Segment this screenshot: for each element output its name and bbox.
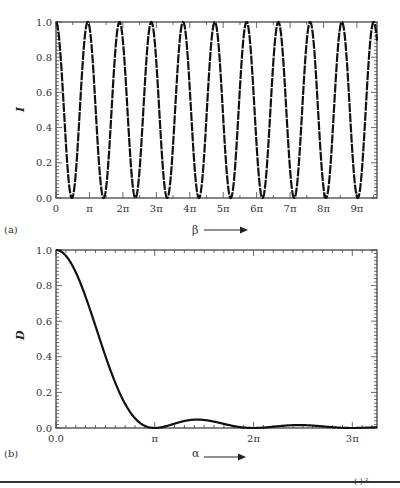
cropped-formula-fragment: ( ) ² bbox=[354, 477, 369, 486]
panel-b-x-axis-title: α bbox=[192, 447, 200, 460]
y-tick-label: 1.0 bbox=[36, 17, 52, 28]
arrow-icon bbox=[204, 454, 246, 461]
x-tick-label: 5π bbox=[217, 203, 230, 214]
panel-a-curve bbox=[56, 22, 377, 198]
x-tick-label: 2π bbox=[247, 433, 260, 444]
panel-a-x-axis-title: β bbox=[192, 224, 198, 237]
x-tick-label: 9π bbox=[350, 203, 363, 214]
y-tick-label: 0.4 bbox=[36, 122, 52, 133]
x-tick-label: 3π bbox=[346, 433, 359, 444]
x-tick-label: 3π bbox=[150, 203, 163, 214]
y-tick-label: 1.0 bbox=[36, 245, 52, 256]
panel-a-label: (a) bbox=[4, 224, 18, 235]
y-tick-label: 0.8 bbox=[36, 280, 52, 291]
y-tick-label: 0.8 bbox=[36, 52, 52, 63]
panel-a-y-tick-labels: 0.00.20.40.60.81.0 bbox=[36, 17, 52, 204]
y-tick-label: 0.6 bbox=[36, 87, 52, 98]
panel-a-frame bbox=[56, 22, 377, 198]
y-tick-label: 0.4 bbox=[36, 351, 52, 362]
panel-b-label: (b) bbox=[4, 448, 18, 459]
panel-b-y-tick-labels: 0.00.20.40.60.81.0 bbox=[36, 245, 52, 434]
panel-b-plot: 0.0π2π3π 0.00.20.40.60.81.0 D (b) α bbox=[4, 245, 377, 461]
y-tick-label: 0.0 bbox=[36, 193, 52, 204]
panel-b-ticks bbox=[56, 250, 377, 428]
x-tick-label: 0.0 bbox=[48, 433, 64, 444]
panel-b-y-axis-title: D bbox=[14, 330, 27, 341]
x-tick-label: 6π bbox=[250, 203, 263, 214]
y-tick-label: 0.0 bbox=[36, 423, 52, 434]
y-tick-label: 0.2 bbox=[36, 387, 52, 398]
arrow-icon bbox=[204, 227, 248, 234]
y-tick-label: 0.2 bbox=[36, 157, 52, 168]
figure: 0π2π3π4π5π6π7π8π9π 0.00.20.40.60.81.0 I … bbox=[0, 0, 400, 488]
panel-a-y-axis-title: I bbox=[14, 106, 27, 113]
x-tick-label: 0 bbox=[53, 203, 59, 214]
panel-a-x-tick-labels: 0π2π3π4π5π6π7π8π9π bbox=[53, 203, 364, 214]
panel-b-frame bbox=[56, 250, 377, 428]
x-tick-label: 2π bbox=[116, 203, 129, 214]
panel-a-ticks bbox=[56, 22, 377, 198]
x-tick-label: 8π bbox=[317, 203, 330, 214]
panel-a-plot: 0π2π3π4π5π6π7π8π9π 0.00.20.40.60.81.0 I … bbox=[4, 17, 377, 238]
panel-b-curve bbox=[56, 250, 377, 428]
x-tick-label: 4π bbox=[183, 203, 196, 214]
panel-b-x-tick-labels: 0.0π2π3π bbox=[48, 433, 359, 444]
x-tick-label: π bbox=[151, 433, 158, 444]
x-tick-label: 7π bbox=[284, 203, 297, 214]
y-tick-label: 0.6 bbox=[36, 316, 52, 327]
x-tick-label: π bbox=[86, 203, 93, 214]
